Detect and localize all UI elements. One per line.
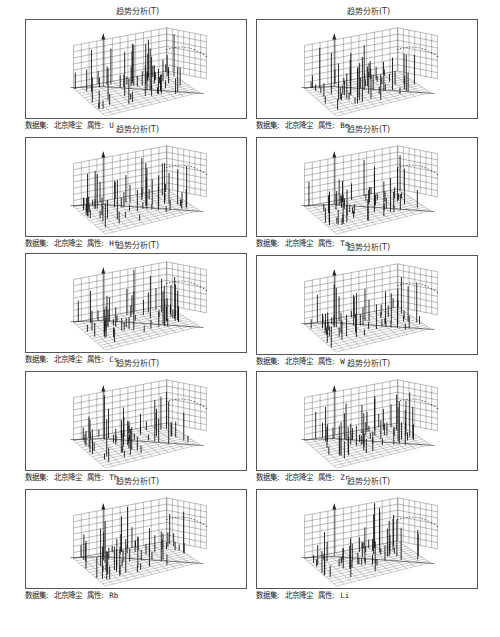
- trend-panel-be: 趋势分析(T) 数据集: 北京降尘 属性: Be: [256, 6, 481, 124]
- panel-caption: 数据集: 北京降尘 属性: Li: [256, 590, 352, 601]
- chart-frame: [25, 253, 247, 353]
- panel-title: 趋势分析(T): [25, 240, 250, 252]
- trend-3d-plot: [257, 138, 477, 236]
- trend-3d-plot: [26, 254, 246, 352]
- chart-frame: [256, 137, 478, 237]
- dataset-value: 北京降尘: [285, 591, 313, 600]
- panel-title: 趋势分析(T): [256, 124, 481, 136]
- chart-frame: [25, 19, 247, 119]
- panel-title: 趋势分析(T): [25, 358, 250, 370]
- trend-3d-plot: [26, 138, 246, 236]
- trend-panel-cs: 趋势分析(T) 数据集: 北京降尘 属性: Cs: [25, 240, 250, 358]
- panel-title: 趋势分析(T): [25, 6, 250, 18]
- trend-panel-u: 趋势分析(T) 数据集: 北京降尘 属性: U: [25, 6, 250, 124]
- panel-title: 趋势分析(T): [25, 124, 250, 136]
- trend-panel-rb: 趋势分析(T) 数据集: 北京降尘 属性: Rb: [25, 476, 250, 594]
- attribute-value: Rb: [109, 591, 118, 600]
- trend-panel-li: 趋势分析(T) 数据集: 北京降尘 属性: Li: [256, 476, 481, 594]
- dataset-value: 北京降尘: [54, 591, 82, 600]
- trend-3d-plot: [26, 490, 246, 588]
- trend-panel-hf: 趋势分析(T) 数据集: 北京降尘 属性: Hf: [25, 124, 250, 242]
- trend-3d-plot: [257, 20, 477, 118]
- chart-frame: [25, 137, 247, 237]
- chart-frame: [25, 371, 247, 471]
- trend-3d-plot: [257, 490, 477, 588]
- panel-caption: 数据集: 北京降尘 属性: Rb: [25, 590, 121, 601]
- trend-panel-ta: 趋势分析(T) 数据集: 北京降尘 属性: Ta: [256, 124, 481, 242]
- trend-3d-plot: [26, 20, 246, 118]
- panel-title: 趋势分析(T): [256, 358, 481, 370]
- trend-3d-plot: [26, 372, 246, 470]
- trend-panel-zr: 趋势分析(T) 数据集: 北京降尘 属性: Zr: [256, 358, 481, 476]
- chart-frame: [256, 19, 478, 119]
- panel-title: 趋势分析(T): [256, 6, 481, 18]
- panel-title: 趋势分析(T): [256, 476, 481, 488]
- trend-panel-w: 趋势分析(T) 数据集: 北京降尘 属性: W: [256, 242, 481, 360]
- chart-frame: [25, 489, 247, 589]
- panel-title: 趋势分析(T): [256, 242, 481, 254]
- chart-frame: [256, 255, 478, 355]
- trend-panel-th: 趋势分析(T) 数据集: 北京降尘 属性: Th: [25, 358, 250, 476]
- attribute-label: 属性:: [87, 591, 104, 600]
- attribute-label: 属性:: [318, 591, 335, 600]
- dataset-label: 数据集:: [25, 591, 49, 600]
- attribute-value: Li: [340, 591, 349, 600]
- chart-frame: [256, 489, 478, 589]
- trend-3d-plot: [257, 372, 477, 470]
- panel-title: 趋势分析(T): [25, 476, 250, 488]
- trend-3d-plot: [257, 256, 477, 354]
- dataset-label: 数据集:: [256, 591, 280, 600]
- chart-frame: [256, 371, 478, 471]
